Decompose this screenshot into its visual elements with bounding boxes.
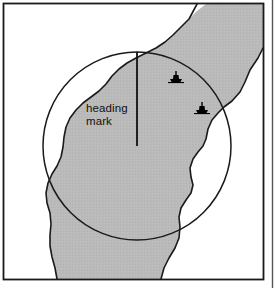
radar-chart-canvas: heading mark (0, 0, 277, 288)
heading-mark-label-line2: mark (86, 115, 112, 127)
radar-chart-figure: heading mark (0, 0, 277, 288)
heading-mark-label-line1: heading (86, 102, 128, 114)
